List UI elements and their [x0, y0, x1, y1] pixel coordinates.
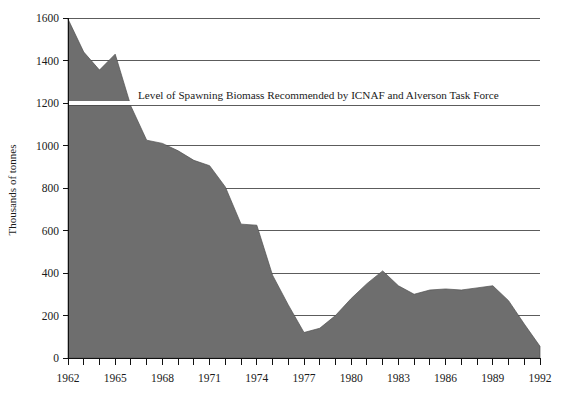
reference-line-group: [68, 103, 540, 105]
x-tick-label: 1977: [293, 372, 316, 384]
x-tick-label: 1971: [198, 372, 221, 384]
annotation-group: Level of Spawning Biomass Recommended by…: [138, 89, 499, 101]
y-tick-label: 600: [42, 225, 60, 237]
reference-line-annotation-label: Level of Spawning Biomass Recommended by…: [138, 89, 499, 101]
x-tick-label: 1968: [151, 372, 174, 384]
y-tick-label: 1400: [36, 55, 59, 67]
y-tick-label: 1000: [36, 140, 59, 152]
y-tick-label: 0: [53, 352, 59, 364]
y-tick-label: 800: [42, 182, 60, 194]
x-tick-label: 1974: [245, 372, 268, 384]
x-tick-label: 1980: [340, 372, 363, 384]
x-tick-label: 1983: [387, 372, 410, 384]
x-tick-label: 1986: [434, 372, 457, 384]
x-tick-label: 1989: [481, 372, 504, 384]
y-tick-label: 200: [42, 310, 60, 322]
x-tick-label: 1992: [529, 372, 552, 384]
y-tick-label: 1600: [36, 12, 59, 24]
x-tick-label: 1962: [57, 372, 80, 384]
y-axis-title: Thousands of tonnes: [6, 144, 18, 235]
y-tick-label: 400: [42, 267, 60, 279]
biomass-area-chart: 02004006008001000120014001600 1962196519…: [0, 0, 565, 398]
y-tick-label: 1200: [36, 97, 59, 109]
x-tick-label: 1965: [104, 372, 127, 384]
chart-container: 02004006008001000120014001600 1962196519…: [0, 0, 565, 398]
